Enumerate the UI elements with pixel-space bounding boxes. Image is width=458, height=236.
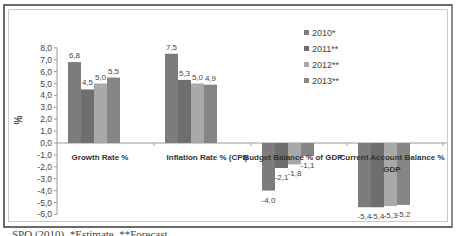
y-tick-label: -6,0	[37, 209, 52, 219]
y-axis-title: %	[13, 115, 24, 124]
category-label: Budget Balance % of GDP	[243, 153, 343, 162]
y-tick-label: 5,0	[40, 79, 52, 89]
bars	[68, 54, 410, 208]
legend-label: 2010*	[312, 28, 336, 38]
data-label: 5,0	[95, 73, 107, 82]
y-tick-label: -1,0	[37, 150, 52, 160]
bar-chart: 8,07,06,05,04,03,02,01,00,0-1,0-2,0-3,0-…	[0, 0, 458, 236]
y-tick-label: 1,0	[40, 126, 52, 136]
y-tick-label: 3,0	[40, 102, 52, 112]
source-caption: SPO (2010), *Estimate, **Forecast	[12, 229, 168, 236]
category-label: Growth Rate %	[72, 153, 129, 162]
bar	[94, 84, 107, 144]
y-tick-label: 0,0	[40, 138, 52, 148]
data-label: 7,5	[166, 43, 178, 52]
legend-label: 2012**	[312, 60, 340, 70]
legend-swatch	[304, 62, 309, 67]
y-tick-label: -4,0	[37, 186, 52, 196]
category-label: Inflation Rate % (CPI)	[167, 153, 248, 162]
legend-swatch	[304, 78, 309, 83]
bar	[262, 143, 275, 191]
bar	[81, 89, 94, 143]
data-label: -1,8	[288, 169, 302, 178]
y-tick-label: -3,0	[37, 174, 52, 184]
y-tick-label: -2,0	[37, 162, 52, 172]
y-tick-label: 8,0	[40, 43, 52, 53]
data-label: -1,1	[301, 161, 315, 170]
data-label: 4,9	[205, 74, 217, 83]
legend-label: 2013**	[312, 76, 340, 86]
y-tick-label: 7,0	[40, 55, 52, 65]
legend: 2010*2011**2012**2013**	[304, 28, 340, 86]
data-label: -4,0	[262, 196, 276, 205]
data-label: 5,3	[179, 69, 191, 78]
y-tick-label: -5,0	[37, 198, 52, 208]
legend-label: 2011**	[312, 44, 339, 54]
data-label: 6,8	[69, 51, 81, 60]
legend-swatch	[304, 30, 309, 35]
data-label: 4,5	[82, 78, 94, 87]
category-label: Current Account Balance %	[339, 153, 444, 162]
category-label: GDP	[383, 165, 401, 174]
bar	[191, 84, 204, 144]
y-tick-label: 2,0	[40, 114, 52, 124]
bar	[165, 54, 178, 143]
bar	[204, 85, 217, 143]
y-tick-label: 6,0	[40, 67, 52, 77]
data-label: 5,5	[108, 67, 120, 76]
data-label: 5,0	[192, 73, 204, 82]
bar	[68, 62, 81, 143]
y-tick-label: 4,0	[40, 90, 52, 100]
data-label: -5,2	[397, 210, 411, 219]
bar	[107, 78, 120, 143]
bar	[178, 80, 191, 143]
legend-swatch	[304, 46, 309, 51]
